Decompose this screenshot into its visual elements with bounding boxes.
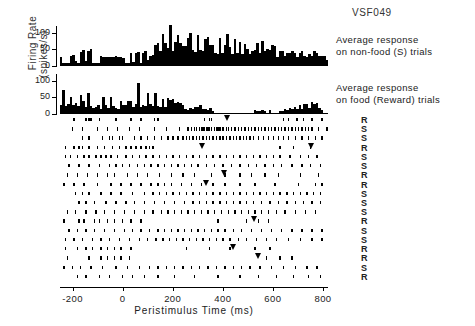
spike-mark (320, 275, 321, 278)
spike-mark (92, 238, 93, 241)
spike-mark (202, 238, 203, 241)
spike-mark (171, 164, 172, 167)
spike-mark (321, 136, 322, 139)
spike-mark (159, 155, 160, 158)
x-axis-tick (173, 287, 174, 291)
spike-mark (115, 201, 116, 204)
spike-mark (100, 192, 101, 195)
spike-mark (129, 127, 130, 130)
spike-mark (266, 192, 267, 195)
spike-mark (147, 136, 148, 139)
baseline-top (60, 65, 328, 66)
response-marker-icon (230, 244, 236, 250)
spike-mark (130, 247, 131, 250)
spike-mark (248, 127, 249, 130)
spike-mark (303, 118, 304, 121)
spike-mark (222, 164, 223, 167)
spike-mark (184, 201, 185, 204)
spike-mark (233, 229, 234, 232)
spike-mark (222, 127, 223, 130)
spike-mark (196, 238, 197, 241)
spike-mark (109, 238, 110, 241)
spike-mark (105, 155, 106, 158)
spike-mark (264, 164, 265, 167)
spike-mark (199, 201, 200, 204)
spike-mark (209, 136, 210, 139)
spike-mark (256, 164, 257, 167)
spike-mark (191, 229, 192, 232)
spike-mark (288, 118, 289, 121)
spike-mark (154, 118, 155, 121)
spike-mark (77, 155, 78, 158)
spike-mark (192, 201, 193, 204)
spike-mark (147, 173, 148, 176)
raster-row (60, 254, 328, 263)
spike-mark (119, 146, 120, 149)
spike-mark (266, 155, 267, 158)
spike-mark (164, 229, 165, 232)
spike-mark (216, 266, 217, 269)
spike-mark (189, 238, 190, 241)
spike-mark (249, 266, 250, 269)
spike-mark (211, 229, 212, 232)
spike-mark (206, 192, 207, 195)
spike-mark (271, 266, 272, 269)
spike-mark (194, 210, 195, 213)
spike-mark (321, 238, 322, 241)
spike-mark (301, 127, 302, 130)
spike-mark (73, 238, 74, 241)
spike-mark (291, 127, 292, 130)
spike-mark (268, 127, 269, 130)
spike-mark (78, 201, 79, 204)
spike-mark (221, 210, 222, 213)
histogram-non-food-trials (60, 26, 328, 66)
spike-mark (258, 275, 259, 278)
spike-mark (207, 266, 208, 269)
spike-mark (211, 118, 212, 121)
spike-mark (154, 201, 155, 204)
spike-mark (256, 238, 257, 241)
spike-mark (238, 127, 239, 130)
y-axis-tick: 100 (52, 81, 57, 82)
spike-mark (194, 173, 195, 176)
spike-mark (164, 164, 165, 167)
spike-mark (278, 201, 279, 204)
spike-mark (231, 164, 232, 167)
spike-mark (186, 155, 187, 158)
spike-mark (97, 127, 98, 130)
spike-mark (228, 127, 229, 130)
spike-mark (167, 210, 168, 213)
spike-mark (182, 238, 183, 241)
spike-mark (310, 164, 311, 167)
spike-mark (122, 164, 123, 167)
spike-mark (65, 247, 66, 250)
spike-mark (289, 155, 290, 158)
spike-mark (120, 192, 121, 195)
spike-mark (271, 127, 272, 130)
spike-mark (137, 173, 138, 176)
spike-mark (308, 275, 309, 278)
spike-mark (308, 136, 309, 139)
spike-mark (68, 164, 69, 167)
spike-mark (266, 256, 267, 259)
spike-mark (246, 219, 247, 222)
spike-mark (127, 266, 128, 269)
spike-mark (281, 229, 282, 232)
raster-row (60, 162, 328, 171)
spike-mark (92, 247, 93, 250)
spike-mark (246, 136, 247, 139)
spike-mark (241, 266, 242, 269)
spike-mark (182, 173, 183, 176)
spike-mark (254, 183, 255, 186)
raster-row (60, 264, 328, 273)
spike-mark (114, 210, 115, 213)
spike-mark (159, 173, 160, 176)
spike-mark (114, 247, 115, 250)
spike-mark (99, 275, 100, 278)
spike-mark (144, 164, 145, 167)
annotation-non-food-line2: on non-food (S) trials (336, 46, 432, 58)
spike-mark (239, 183, 240, 186)
y-axis-tick: 0 (52, 66, 57, 67)
spike-mark (129, 256, 130, 259)
spike-mark (199, 266, 200, 269)
